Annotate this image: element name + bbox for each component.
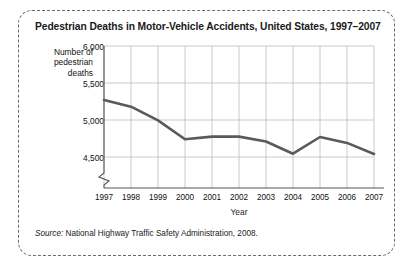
x-axis-label: Year xyxy=(104,207,374,217)
chart-canvas xyxy=(19,11,396,211)
source-prefix: Source: xyxy=(35,229,63,238)
source-text: National Highway Traffic Safety Administ… xyxy=(63,229,258,238)
figure-panel: Pedestrian Deaths in Motor-Vehicle Accid… xyxy=(18,10,395,256)
axis-break-icon xyxy=(99,169,109,188)
source-note: Source: National Highway Traffic Safety … xyxy=(35,229,258,238)
x-tick-2007: 2007 xyxy=(357,193,391,202)
plot-area: 6,000 5,500 5,000 4,500 xyxy=(19,11,396,257)
vertical-gridlines xyxy=(104,46,374,188)
